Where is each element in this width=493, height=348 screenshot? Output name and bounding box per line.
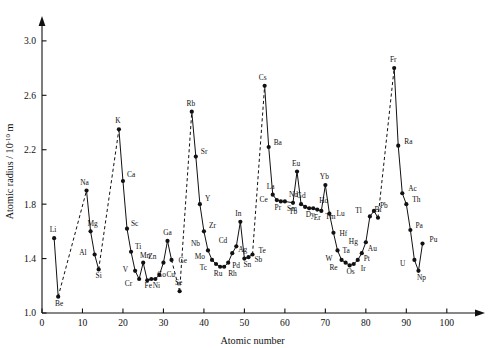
data-point-marker: [315, 208, 319, 212]
element-symbol-label: Cr: [125, 279, 133, 288]
data-point-marker: [125, 227, 129, 231]
x-tick-label: 0: [40, 317, 45, 328]
data-point-marker: [230, 251, 234, 255]
element-symbol-label: Y: [205, 194, 211, 203]
element-symbol-label: Pr: [275, 203, 282, 212]
element-symbol-label: Cs: [259, 73, 267, 82]
data-point-marker: [234, 244, 238, 248]
element-symbol-label: Na: [80, 178, 89, 187]
data-points: LiBeNaMgAlSiKCaScTiVCrMnFeCoNiCuZnGaGeSe…: [50, 55, 438, 308]
element-symbol-label: Al: [79, 248, 86, 257]
element-symbol-label: Ta: [343, 246, 351, 255]
x-tick-label: 20: [118, 317, 128, 328]
data-point-marker: [84, 188, 88, 192]
element-symbol-label: Ga: [163, 228, 172, 237]
element-symbol-label: Ac: [408, 184, 417, 193]
data-point-marker: [206, 248, 210, 252]
element-symbol-label: Rb: [186, 99, 195, 108]
y-axis-arrow-icon: [39, 16, 46, 26]
data-point-marker: [238, 220, 242, 224]
element-symbol-label: Be: [55, 299, 64, 308]
series-segment-solid: [394, 68, 422, 271]
data-point-marker: [408, 228, 412, 232]
data-point-marker: [157, 273, 161, 277]
element-symbol-label: Sc: [131, 219, 139, 228]
data-point-marker: [169, 258, 173, 262]
element-symbol-label: Nb: [191, 239, 200, 248]
y-tick-label: 3.0: [24, 35, 36, 46]
element-symbol-label: Bi: [374, 205, 381, 214]
element-symbol-label: K: [115, 116, 121, 125]
data-point-marker: [396, 144, 400, 148]
data-point-marker: [161, 261, 165, 265]
element-symbol-label: Re: [329, 263, 338, 272]
plot-canvas: 01020304050607080901001.01.41.82.22.63.0…: [0, 0, 493, 348]
data-point-marker: [52, 236, 56, 240]
x-tick-label: 50: [240, 317, 250, 328]
data-point-marker: [178, 289, 182, 293]
data-point-marker: [133, 269, 137, 273]
element-symbol-label: Zr: [209, 221, 217, 230]
series-segment-solid: [87, 191, 99, 270]
element-symbol-label: V: [123, 265, 129, 274]
data-point-marker: [331, 231, 335, 235]
element-symbol-label: Hg: [349, 237, 358, 246]
element-symbol-label: Np: [417, 273, 426, 282]
data-point-marker: [141, 261, 145, 265]
y-tick-label: 2.2: [24, 144, 36, 155]
x-tick-label: 10: [78, 317, 88, 328]
element-symbol-label: Te: [259, 246, 267, 255]
data-point-marker: [339, 258, 343, 262]
data-point-marker: [299, 202, 303, 206]
element-symbol-label: Yb: [320, 172, 329, 181]
element-symbol-label: Pu: [430, 235, 438, 244]
x-tick-label: 40: [199, 317, 209, 328]
element-symbol-label: Ba: [274, 138, 283, 147]
element-symbol-label: Zn: [148, 252, 157, 261]
element-symbol-label: Ir: [361, 264, 366, 273]
data-point-marker: [198, 202, 202, 206]
element-symbol-label: Si: [96, 271, 102, 280]
data-point-marker: [352, 262, 356, 266]
data-point-marker: [327, 212, 331, 216]
element-symbol-label: Au: [368, 244, 377, 253]
data-point-marker: [246, 255, 250, 259]
element-symbol-label: In: [235, 209, 241, 218]
data-point-marker: [117, 127, 121, 131]
element-symbol-label: Th: [412, 195, 421, 204]
data-point-marker: [392, 66, 396, 70]
element-symbol-label: Mo: [195, 252, 206, 261]
data-point-marker: [295, 169, 299, 173]
data-point-marker: [129, 250, 133, 254]
x-axis-arrow-icon: [475, 310, 485, 317]
element-symbol-label: Pd: [232, 261, 240, 270]
element-symbol-label: Fe: [145, 281, 153, 290]
element-symbol-label: Ge: [179, 256, 188, 265]
data-point-marker: [400, 191, 404, 195]
element-symbol-label: Ru: [214, 269, 223, 278]
element-symbol-label: Gd: [297, 191, 306, 200]
data-point-marker: [121, 179, 125, 183]
series-segment-dashed: [99, 129, 119, 269]
data-point-marker: [323, 183, 327, 187]
data-point-marker: [263, 84, 267, 88]
data-point-marker: [356, 258, 360, 262]
element-symbol-label: Pt: [364, 254, 371, 263]
data-point-marker: [319, 209, 323, 213]
x-tick-label: 70: [321, 317, 331, 328]
element-symbol-label: Sb: [254, 255, 262, 264]
element-symbol-label: Se: [175, 278, 183, 287]
element-symbol-label: Fr: [390, 55, 397, 64]
element-symbol-label: Lu: [336, 209, 345, 218]
data-point-marker: [335, 248, 339, 252]
element-symbol-label: Sr: [201, 147, 208, 156]
data-point-marker: [214, 262, 218, 266]
data-point-marker: [222, 265, 226, 269]
element-symbol-label: Ti: [135, 242, 141, 251]
element-symbol-label: Mg: [87, 219, 98, 228]
element-symbol-label: Tb: [289, 207, 298, 216]
x-tick-label: 60: [280, 317, 290, 328]
element-symbol-label: W: [326, 254, 333, 263]
element-symbol-label: Os: [347, 267, 355, 276]
series-segment-dashed: [253, 86, 265, 255]
